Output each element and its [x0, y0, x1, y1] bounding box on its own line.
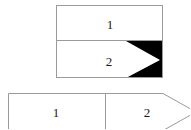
bottom-table-outline: [9, 94, 191, 130]
top-table-row-1-label: 1: [107, 18, 114, 31]
diagram-canvas: 1 2 1 2: [0, 0, 190, 129]
bottom-table-cell-2-label: 2: [144, 106, 151, 119]
bottom-table-cell-1-label: 1: [53, 106, 60, 119]
top-table-row-2-label: 2: [106, 55, 113, 68]
bottom-table-group: [9, 94, 191, 130]
diagram-vector-layer: [0, 0, 190, 129]
